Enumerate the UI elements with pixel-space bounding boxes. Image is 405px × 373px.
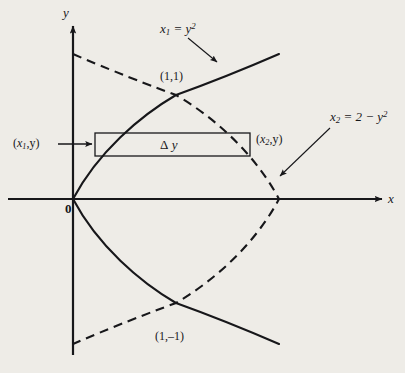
dashed-eq-sup: 2 [191,21,195,31]
solid-eq-sup: 2 [383,109,387,119]
y-axis-label: y [63,6,69,19]
strip-left-endpoint-label: (x1,y) [13,137,39,151]
strip-left-rest: ,y) [26,136,39,150]
origin-label: 0 [65,202,72,215]
dashed-curve-equation-label: x1 = y2 [160,22,196,37]
x-axis-label: x [388,192,394,205]
solid-eq-rhs: = 2 − y [340,109,383,124]
solid-curve-equation-label: x2 = 2 − y2 [330,110,387,125]
delta-var: y [168,137,177,152]
solid-curve-leader-arrow [280,128,330,176]
dashed-curve-leader-arrow [188,38,217,62]
math-figure: y x 0 x1 = y2 x2 = 2 − y2 (1,1) (1,–1) (… [0,0,405,373]
strip-right-rest: ,y) [269,132,282,146]
dashed-eq-rhs: = y [170,21,191,36]
upper-intersection-point-label: (1,1) [160,70,183,82]
strip-right-endpoint-label: (x2,y) [256,133,282,147]
strip-thickness-label: Δ y [160,138,177,151]
lower-intersection-point-label: (1,–1) [155,330,184,342]
figure-canvas [0,0,405,373]
